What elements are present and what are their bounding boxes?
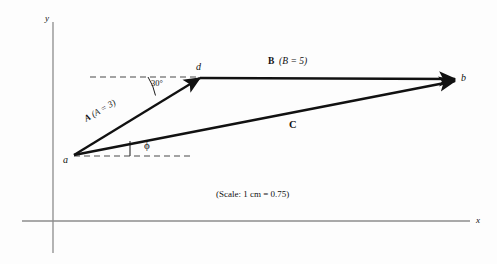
angle-label-30deg: 30° (151, 79, 163, 88)
diagram-canvas (0, 0, 497, 264)
point-label-b: b (461, 73, 466, 83)
x-axis-label: x (476, 216, 480, 225)
vector-c-label: C (289, 120, 297, 131)
vector-b-label: B (B = 5) (268, 57, 307, 67)
angle-label-phi: ϕ (144, 140, 150, 151)
vector-b-magnitude-text: (B = 5) (279, 56, 307, 66)
vectors-group (74, 78, 455, 155)
vector-c-arrow (74, 81, 455, 155)
point-label-d: d (196, 62, 201, 72)
scale-caption: (Scale: 1 cm = 0.75) (216, 190, 289, 199)
vector-b-arrow (200, 78, 455, 79)
axes-group (22, 22, 470, 253)
y-axis-label: y (45, 14, 49, 23)
vector-diagram-figure: y x a d b A (A = 3) B (B = 5) C 30° ϕ (S… (0, 0, 497, 264)
point-label-a: a (63, 155, 68, 165)
